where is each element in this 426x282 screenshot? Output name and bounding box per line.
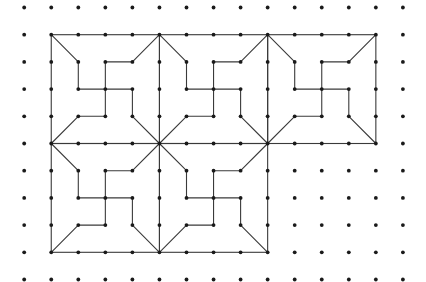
grid-dot — [158, 169, 162, 173]
grid-dot — [212, 114, 216, 118]
grid-dot — [131, 223, 135, 227]
grid-dot — [266, 33, 270, 37]
grid-dot — [374, 169, 378, 173]
grid-dot — [185, 60, 189, 64]
grid-dot — [401, 6, 405, 10]
grid-dot — [49, 6, 53, 10]
grid-dot — [374, 250, 378, 254]
grid-dot — [49, 60, 53, 64]
grid-dot — [239, 169, 243, 173]
grid-dot — [293, 250, 297, 254]
pinwheel-edge — [51, 35, 78, 62]
grid-dot — [347, 196, 351, 200]
grid-dot — [401, 250, 405, 254]
grid-dot — [22, 142, 26, 146]
grid-dot — [158, 278, 162, 282]
grid-dot — [374, 196, 378, 200]
grid-dot — [103, 33, 107, 37]
pinwheel-edge — [241, 225, 268, 252]
grid-dot — [320, 278, 324, 282]
pinwheel-edge — [268, 116, 295, 143]
grid-dot — [103, 60, 107, 64]
grid-dot — [22, 87, 26, 91]
grid-dot — [320, 114, 324, 118]
grid-dot — [347, 60, 351, 64]
grid-dot — [103, 142, 107, 146]
grid-dot — [320, 142, 324, 146]
grid-dot — [76, 278, 80, 282]
grid-dot — [158, 33, 162, 37]
grid-dot — [22, 33, 26, 37]
grid-dot — [293, 87, 297, 91]
grid-dot — [401, 278, 405, 282]
grid-dot — [76, 142, 80, 146]
grid-dot — [158, 6, 162, 10]
grid-dot — [103, 169, 107, 173]
grid-dot — [22, 223, 26, 227]
grid-dot — [293, 114, 297, 118]
grid-dot — [239, 114, 243, 118]
grid-dot — [293, 278, 297, 282]
grid-dot — [320, 87, 324, 91]
grid-dot — [131, 142, 135, 146]
grid-dot — [320, 33, 324, 37]
grid-dot — [266, 6, 270, 10]
grid-dot — [158, 142, 162, 146]
grid-dot — [212, 6, 216, 10]
grid-dot — [185, 169, 189, 173]
grid-dot — [239, 196, 243, 200]
grid-dot — [347, 87, 351, 91]
pinwheel-edge — [159, 116, 186, 143]
grid-dot — [212, 169, 216, 173]
grid-dot — [76, 6, 80, 10]
grid-dot — [401, 33, 405, 37]
pinwheel-edge — [51, 225, 78, 252]
pinwheel-edge — [349, 116, 376, 143]
grid-dot — [49, 33, 53, 37]
grid-dot — [22, 278, 26, 282]
grid-dot — [320, 60, 324, 64]
grid-dot — [266, 250, 270, 254]
grid-dot — [49, 278, 53, 282]
grid-dot — [76, 223, 80, 227]
grid-dot — [49, 223, 53, 227]
grid-dot — [158, 60, 162, 64]
grid-dot — [212, 223, 216, 227]
grid-dot — [76, 196, 80, 200]
grid-dot — [320, 6, 324, 10]
grid-dot — [185, 6, 189, 10]
grid-dot — [293, 142, 297, 146]
grid-dot — [347, 33, 351, 37]
grid-dot — [158, 87, 162, 91]
grid-dot — [239, 142, 243, 146]
grid-dot — [131, 196, 135, 200]
grid-dot — [103, 196, 107, 200]
dot-grid-diagram — [0, 0, 426, 282]
grid-dot — [22, 114, 26, 118]
grid-dot — [76, 250, 80, 254]
grid-dot — [401, 114, 405, 118]
grid-dot — [131, 87, 135, 91]
grid-dot — [293, 223, 297, 227]
grid-dot — [374, 142, 378, 146]
grid-dot — [49, 196, 53, 200]
grid-dot — [266, 196, 270, 200]
grid-dot — [239, 33, 243, 37]
grid-dot — [293, 6, 297, 10]
grid-dot — [103, 250, 107, 254]
grid-dot — [131, 60, 135, 64]
grid-dot — [401, 169, 405, 173]
grid-dot — [131, 278, 135, 282]
pinwheel-edge — [349, 35, 376, 62]
grid-dot — [293, 169, 297, 173]
grid-dot — [131, 6, 135, 10]
pinwheel-edge — [241, 144, 268, 171]
grid-dot — [266, 142, 270, 146]
grid-dots — [22, 6, 405, 282]
grid-dot — [320, 169, 324, 173]
grid-dot — [185, 250, 189, 254]
grid-dot — [266, 169, 270, 173]
pinwheel-edge — [132, 35, 159, 62]
grid-dot — [374, 278, 378, 282]
grid-dot — [76, 33, 80, 37]
